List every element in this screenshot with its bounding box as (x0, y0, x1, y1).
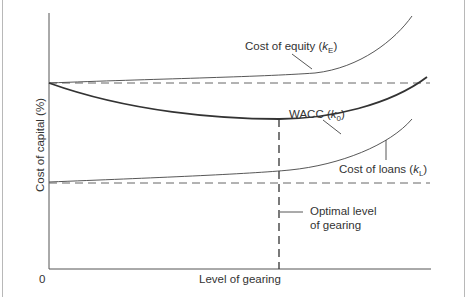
gearing-diagram: Cost of equity (kE) WACC (k0) Cost of lo… (0, 0, 468, 297)
optimal-label-line1: Optimal level (310, 205, 376, 217)
origin-label: 0 (39, 273, 45, 285)
y-axis-label: Cost of capital (%) (34, 98, 46, 192)
optimal-label-line2: of gearing (310, 219, 361, 231)
cost-of-loans-label: Cost of loans (kL) (339, 163, 427, 178)
wacc-label: WACC (k0) (289, 108, 345, 123)
cost-of-equity-label: Cost of equity (kE) (245, 40, 337, 55)
cost-of-equity-curve (49, 16, 412, 83)
x-axis-label: Level of gearing (199, 273, 281, 285)
equity-leader-line (292, 54, 312, 69)
